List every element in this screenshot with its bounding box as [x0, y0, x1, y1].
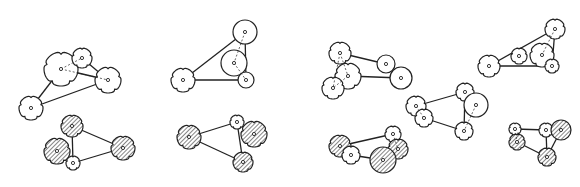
center-dot-icon — [241, 160, 244, 163]
diagram-canvas — [0, 0, 580, 187]
center-dot-icon — [487, 64, 490, 67]
nodes-layer — [19, 19, 571, 173]
center-dot-icon — [243, 30, 246, 33]
center-dot-icon — [232, 61, 235, 64]
center-dot-icon — [252, 132, 255, 135]
center-dot-icon — [59, 67, 62, 70]
center-dot-icon — [553, 27, 556, 30]
center-dot-icon — [338, 51, 341, 54]
center-dot-icon — [381, 158, 384, 161]
center-dot-icon — [71, 161, 74, 164]
center-dot-icon — [235, 120, 238, 123]
center-dot-icon — [70, 124, 73, 127]
center-dot-icon — [474, 103, 477, 106]
center-dot-icon — [55, 149, 58, 152]
center-dot-icon — [181, 78, 184, 81]
center-dot-icon — [517, 54, 520, 57]
center-dot-icon — [384, 62, 387, 65]
center-dot-icon — [515, 140, 518, 143]
center-dot-icon — [544, 128, 547, 131]
network-diagrams — [0, 0, 580, 187]
center-dot-icon — [422, 116, 425, 119]
center-dot-icon — [29, 106, 32, 109]
center-dot-icon — [559, 128, 562, 131]
center-dot-icon — [187, 135, 190, 138]
center-dot-icon — [462, 129, 465, 132]
center-dot-icon — [331, 86, 334, 89]
center-dot-icon — [80, 56, 83, 59]
center-dot-icon — [391, 132, 394, 135]
center-dot-icon — [414, 104, 417, 107]
center-dot-icon — [106, 78, 109, 81]
center-dot-icon — [244, 78, 247, 81]
center-dot-icon — [513, 127, 516, 130]
center-dot-icon — [338, 144, 341, 147]
center-dot-icon — [545, 155, 548, 158]
center-dot-icon — [550, 64, 553, 67]
dashed-layer — [61, 29, 555, 149]
center-dot-icon — [349, 153, 352, 156]
center-dot-icon — [540, 53, 543, 56]
center-dot-icon — [121, 146, 124, 149]
center-dot-icon — [396, 147, 399, 150]
center-dot-icon — [463, 90, 466, 93]
center-dot-icon — [399, 76, 402, 79]
center-dot-icon — [346, 74, 349, 77]
